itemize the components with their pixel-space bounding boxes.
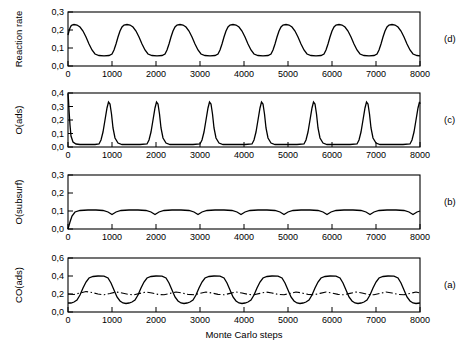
panel-a-xtick-8: 8000 [410,315,430,325]
panel-a-xtick-3: 3000 [190,315,210,325]
panel-d-ytick-3: 0,3 [51,7,64,17]
panel-a-ytick-2: 0,4 [51,271,64,281]
panel-c-xtick-8: 8000 [410,150,430,160]
panel-b-xtick-6: 6000 [322,232,342,242]
panel-d-xtick-7: 7000 [366,69,386,79]
panel-b-xtick-4: 4000 [234,232,254,242]
panel-b-ylabel: O(subsurf) [13,180,24,225]
panel-b-xtick-7: 7000 [366,232,386,242]
panel-a-xtick-6: 6000 [322,315,342,325]
panel-a-xtick-7: 7000 [366,315,386,325]
panel-c: 0,0 0,1 0,2 0,3 0,4 0 1000 2000 3000 400… [13,88,455,160]
panel-d-ytick-1: 0,1 [51,43,64,53]
panel-c-ytick-3: 0,3 [51,102,64,112]
panel-b-label: (b) [444,196,456,207]
figure-container: 0,0 0,1 0,2 0,3 0 1000 2000 3000 4000 50… [0,0,473,348]
panel-c-xtick-1: 1000 [102,150,122,160]
panel-b-xticks [68,224,420,229]
panel-b-ytick-3: 0,3 [51,170,64,180]
panel-d-series-line [68,25,420,56]
panel-a-xtick-4: 4000 [234,315,254,325]
panel-c-ylabel: O(ads) [13,105,24,134]
panel-d-ytick-2: 0,2 [51,25,64,35]
panel-d-yticks [68,12,73,66]
panel-c-xtick-6: 6000 [322,150,342,160]
panel-b-xtick-0: 0 [65,232,70,242]
panel-c-xtick-0: 0 [65,150,70,160]
multi-panel-chart: 0,0 0,1 0,2 0,3 0 1000 2000 3000 4000 50… [0,0,473,348]
panel-c-ytick-1: 0,1 [51,129,64,139]
panel-a-xtick-0: 0 [65,315,70,325]
panel-d-xtick-4: 4000 [234,69,254,79]
panel-d-xtick-1: 1000 [102,69,122,79]
panel-a-xtick-1: 1000 [102,315,122,325]
panel-a-yticks [68,258,73,312]
panel-d-xtick-2: 2000 [146,69,166,79]
panel-c-series-line [68,94,420,145]
panel-c-label: (c) [444,114,455,125]
panel-b-ytick-1: 0,1 [51,206,64,216]
panel-d-xtick-3: 3000 [190,69,210,79]
panel-c-xtick-3: 3000 [190,150,210,160]
panel-b-xtick-8: 8000 [410,232,430,242]
panel-a-ytick-1: 0,2 [51,289,64,299]
panel-d-xtick-6: 6000 [322,69,342,79]
panel-b-frame [68,175,420,229]
panel-c-frame [68,93,420,147]
panel-b-ytick-2: 0,2 [51,188,64,198]
panel-a-ylabel: CO(ads) [13,267,24,303]
panel-a-xticks [68,307,420,312]
panel-a-label: (a) [444,279,456,290]
panel-c-xtick-5: 5000 [278,150,298,160]
panel-c-ytick-2: 0,2 [51,115,64,125]
panel-b-xtick-1: 1000 [102,232,122,242]
panel-b: 0,0 0,1 0,2 0,3 0 1000 2000 3000 4000 50… [13,170,456,242]
panel-c-xtick-7: 7000 [366,150,386,160]
panel-a: 0,0 0,2 0,4 0,6 0 1000 2000 3000 4000 50… [13,253,456,340]
panel-a-ytick-3: 0,6 [51,253,64,263]
panel-b-xtick-5: 5000 [278,232,298,242]
panel-b-xtick-3: 3000 [190,232,210,242]
panel-d-label: (d) [444,33,456,44]
panel-c-xtick-2: 2000 [146,150,166,160]
panel-d: 0,0 0,1 0,2 0,3 0 1000 2000 3000 4000 50… [13,7,456,79]
panel-d-ylabel: Reaction rate [13,11,24,68]
panel-c-ytick-0: 0,0 [51,142,64,152]
panel-a-ytick-0: 0,0 [51,307,64,317]
panel-c-xtick-4: 4000 [234,150,254,160]
panel-d-xticks [68,61,420,66]
panel-c-ytick-4: 0,4 [51,88,64,98]
xaxis-label: Monte Carlo steps [205,329,282,340]
panel-b-ytick-0: 0,0 [51,224,64,234]
panel-a-xtick-2: 2000 [146,315,166,325]
panel-a-xtick-5: 5000 [278,315,298,325]
panel-d-xtick-0: 0 [65,69,70,79]
panel-d-frame [68,12,420,66]
panel-d-xtick-5: 5000 [278,69,298,79]
panel-d-xtick-8: 8000 [410,69,430,79]
panel-b-xtick-2: 2000 [146,232,166,242]
panel-d-ytick-0: 0,0 [51,61,64,71]
panel-a-series-dashed [68,292,420,295]
panel-a-series-solid [68,276,420,304]
panel-a-frame [68,258,420,312]
